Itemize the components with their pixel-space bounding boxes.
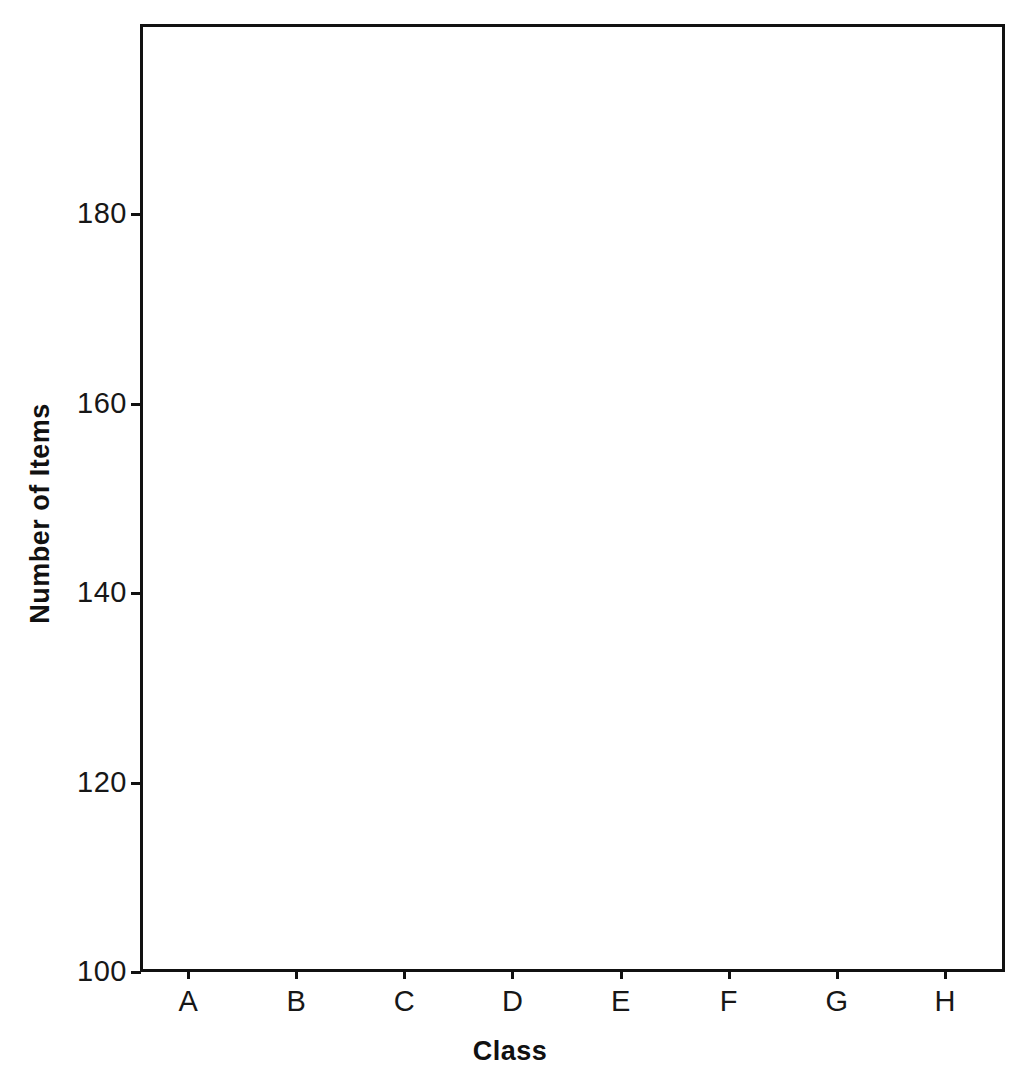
x-tick-label-g: G	[797, 985, 877, 1017]
x-tick-label-h: H	[905, 985, 985, 1017]
x-tick-mark	[295, 970, 298, 979]
x-tick-mark	[403, 970, 406, 979]
y-tick-mark	[131, 403, 141, 406]
y-tick-mark	[131, 971, 141, 974]
y-tick-label: 160	[0, 389, 127, 418]
y-tick-mark	[131, 592, 141, 595]
y-tick-mark	[131, 213, 141, 216]
bar-chart: 100120140160180 ABCDEFGH Number of Items…	[0, 0, 1020, 1080]
x-tick-mark	[187, 970, 190, 979]
y-tick-mark	[131, 782, 141, 785]
x-tick-mark	[728, 970, 731, 979]
y-tick-label: 180	[0, 199, 127, 228]
x-tick-mark	[836, 970, 839, 979]
x-tick-label-b: B	[256, 985, 336, 1017]
x-tick-label-e: E	[581, 985, 661, 1017]
x-tick-label-a: A	[148, 985, 228, 1017]
plot-frame-border	[140, 24, 1005, 972]
x-axis-title: Class	[0, 1036, 1020, 1067]
x-tick-mark	[511, 970, 514, 979]
y-tick-label: 100	[0, 957, 127, 986]
x-tick-mark	[620, 970, 623, 979]
x-tick-label-c: C	[364, 985, 444, 1017]
y-tick-label: 120	[0, 768, 127, 797]
x-tick-label-f: F	[689, 985, 769, 1017]
x-tick-mark	[944, 970, 947, 979]
y-tick-label: 140	[0, 578, 127, 607]
y-axis-title: Number of Items	[25, 314, 56, 714]
x-tick-label-d: D	[472, 985, 552, 1017]
